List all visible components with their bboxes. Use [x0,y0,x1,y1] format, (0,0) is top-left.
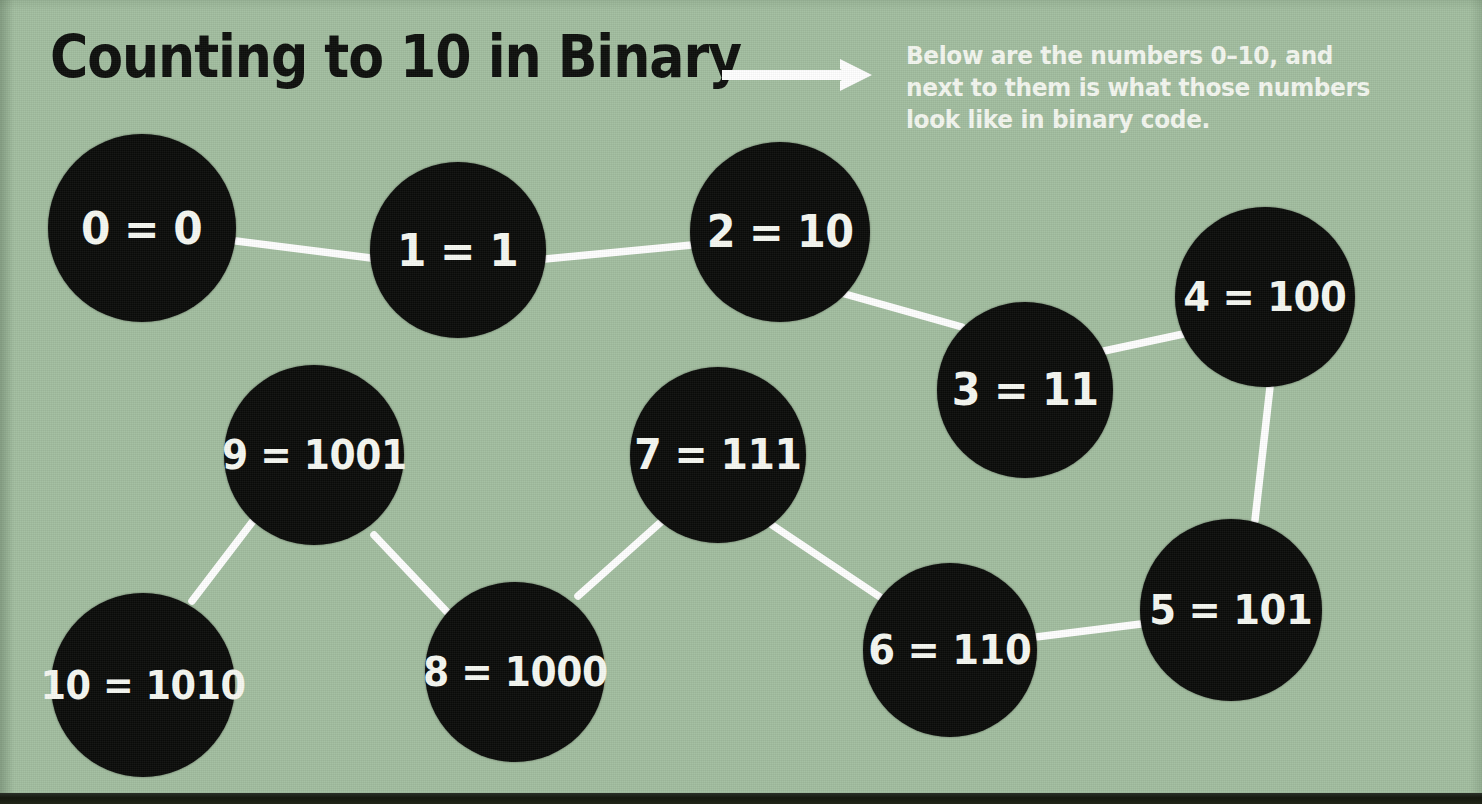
graph-edge [578,522,661,596]
graph-edge [374,535,448,613]
node-label-0: 0 = 0 [81,206,202,251]
node-label-1: 1 = 1 [397,228,518,273]
node-label-7: 7 = 111 [634,434,801,476]
node-label-9: 9 = 1001 [222,435,407,475]
node-0[interactable]: 0 = 0 [48,134,236,322]
node-3[interactable]: 3 = 11 [937,302,1113,478]
node-label-8: 8 = 1000 [423,652,608,692]
node-10[interactable]: 10 = 1010 [51,593,235,777]
node-label-3: 3 = 11 [952,368,1099,412]
graph-edge [845,294,962,327]
binary-counting-poster: Counting to 10 in Binary Below are the n… [0,0,1482,804]
node-2[interactable]: 2 = 10 [690,142,870,322]
arrow-right-icon [722,57,874,93]
graph-edge [1104,333,1188,351]
node-9[interactable]: 9 = 1001 [224,365,404,545]
graph-edge [236,241,371,258]
graph-edge [1255,387,1270,520]
node-1[interactable]: 1 = 1 [370,162,546,338]
page-title: Counting to 10 in Binary [50,28,741,86]
node-7[interactable]: 7 = 111 [630,367,806,543]
node-8[interactable]: 8 = 1000 [425,582,605,762]
node-label-2: 2 = 10 [707,210,854,254]
node-4[interactable]: 4 = 100 [1175,207,1355,387]
graph-edge [545,245,692,259]
node-label-10: 10 = 1010 [40,666,245,705]
node-label-6: 6 = 110 [868,630,1031,671]
graph-edge [1036,624,1141,637]
node-6[interactable]: 6 = 110 [863,563,1037,737]
node-5[interactable]: 5 = 101 [1140,519,1322,701]
node-label-5: 5 = 101 [1149,590,1312,631]
graph-edge [192,521,253,601]
node-label-4: 4 = 100 [1183,277,1346,318]
graph-edge [772,525,880,597]
scan-bottom-edge [0,793,1482,804]
caption-text: Below are the numbers 0–10, and next to … [906,40,1390,136]
